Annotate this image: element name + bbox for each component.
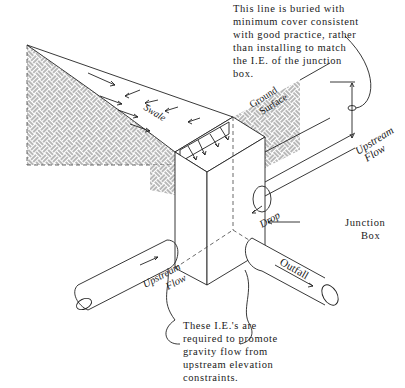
note-bottom-line-5: constraints.	[183, 372, 238, 383]
note-bottom-line-1: These I.E.'s are	[183, 320, 257, 331]
label-box: Box	[361, 230, 380, 241]
note-bottom-line-4: upstream elevation	[183, 359, 274, 370]
label-swale: Swale	[142, 101, 169, 123]
note-bottom-line-3: gravity flow from	[183, 346, 268, 357]
note-top-line-2: minimum cover consistent	[233, 16, 359, 27]
note-top-line-3: with good practice, rather	[233, 29, 356, 40]
note-top-line-4: than installing to match	[233, 42, 346, 53]
note-bottom-line-2: required to promote	[183, 333, 278, 344]
junction-box-diagram: This line is buried with minimum cover c…	[0, 0, 405, 388]
embankment-left	[27, 45, 175, 195]
leader-curve-top	[345, 36, 371, 108]
label-junction: Junction	[345, 217, 386, 228]
note-top-line-1: This line is buried with	[233, 3, 345, 14]
note-top-line-6: box.	[233, 68, 254, 79]
note-top-line-5: the I.E. of the junction	[233, 55, 342, 66]
